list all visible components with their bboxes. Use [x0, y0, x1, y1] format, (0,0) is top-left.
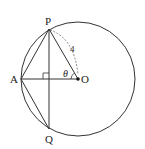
geometry-diagram: P A Q O 4 θ [0, 0, 145, 149]
point-o-dot [76, 77, 80, 81]
segment-pa [21, 29, 49, 79]
label-a: A [10, 73, 18, 85]
label-o: O [81, 73, 89, 85]
label-radius: 4 [70, 44, 75, 54]
label-q: Q [45, 133, 53, 145]
right-angle-marker [43, 73, 49, 79]
segment-aq [21, 79, 49, 129]
angle-arc [71, 73, 75, 79]
label-p: P [45, 15, 51, 27]
label-theta: θ [63, 68, 68, 79]
